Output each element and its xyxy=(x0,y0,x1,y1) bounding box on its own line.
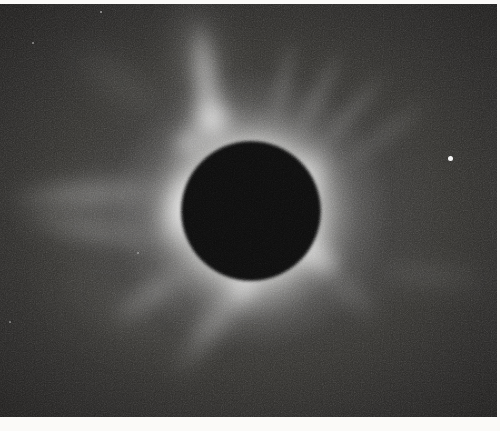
dust-speck-icon xyxy=(9,321,11,323)
scanned-page xyxy=(0,0,500,431)
dust-speck-icon xyxy=(100,11,103,14)
dust-speck-icon xyxy=(32,42,35,45)
star-icon xyxy=(448,156,453,161)
stars-layer xyxy=(0,4,497,417)
dust-speck-icon xyxy=(137,252,139,254)
eclipse-photograph xyxy=(0,4,497,417)
